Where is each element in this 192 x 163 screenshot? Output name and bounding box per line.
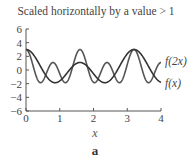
series-label-f2x: f(2x) — [165, 55, 187, 67]
x-tick-label: 3 — [125, 112, 131, 124]
y-tick-label: −4 — [10, 91, 22, 103]
x-tick-label: 0 — [23, 112, 29, 124]
series-lines — [26, 50, 161, 83]
x-tick-label: 4 — [158, 112, 164, 124]
y-tick-label: 6 — [17, 23, 23, 35]
x-tick-label: 1 — [57, 112, 63, 124]
y-tick-label: 2 — [17, 50, 23, 62]
y-tick-label: 0 — [17, 64, 23, 76]
y-tick-label: −2 — [10, 78, 22, 90]
series-label-fx: f(x) — [165, 77, 181, 89]
y-tick-label: 4 — [17, 37, 23, 49]
y-tick-label: −6 — [10, 105, 22, 117]
x-tick-label: 2 — [91, 112, 97, 124]
x-axis-label: x — [88, 126, 102, 141]
axes: 6420−2−4−601234 — [10, 23, 164, 124]
figure-caption: a — [86, 143, 104, 159]
